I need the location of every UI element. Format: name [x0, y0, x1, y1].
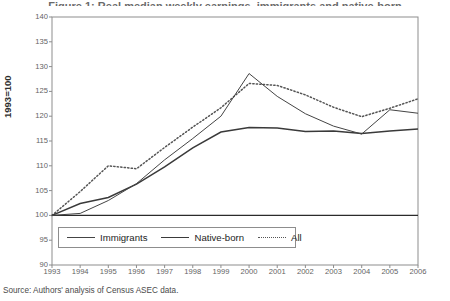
x-tick-2000: 2000: [234, 267, 264, 276]
line-swatch-immigrants: [67, 233, 95, 242]
x-tick-2003: 2003: [319, 267, 349, 276]
x-tick-1994: 1994: [65, 267, 95, 276]
source-note: Source: Authors' analysis of Census ASEC…: [3, 286, 178, 295]
legend-entry-immigrants: Immigrants: [67, 228, 147, 247]
x-tick-2002: 2002: [290, 267, 320, 276]
x-tick-2004: 2004: [347, 267, 377, 276]
x-tick-1996: 1996: [121, 267, 151, 276]
legend-label-immigrants: Immigrants: [100, 232, 147, 243]
series-line-immigrants: [52, 74, 418, 216]
x-tick-2001: 2001: [262, 267, 292, 276]
line-swatch-native-born: [161, 233, 189, 242]
x-axis-tick-labels: 1993199419951996199719981999200020012002…: [0, 267, 450, 281]
x-tick-1993: 1993: [37, 267, 67, 276]
series-line-native-born: [52, 128, 418, 216]
legend-label-native-born: Native-born: [194, 232, 244, 243]
x-tick-1995: 1995: [93, 267, 123, 276]
x-tick-1999: 1999: [206, 267, 236, 276]
line-chart: 1993=100 9095100105110115120125130135140…: [0, 0, 450, 301]
x-tick-2005: 2005: [375, 267, 405, 276]
plot-area: [0, 0, 450, 301]
line-swatch-all: [258, 233, 286, 242]
legend-entry-all: All: [258, 228, 302, 247]
x-tick-2006: 2006: [403, 267, 433, 276]
legend-entry-native-born: Native-born: [161, 228, 244, 247]
x-tick-1997: 1997: [150, 267, 180, 276]
legend-label-all: All: [291, 232, 302, 243]
series-line-all: [52, 83, 418, 215]
x-tick-1998: 1998: [178, 267, 208, 276]
chart-legend: Immigrants Native-born All: [58, 227, 296, 248]
